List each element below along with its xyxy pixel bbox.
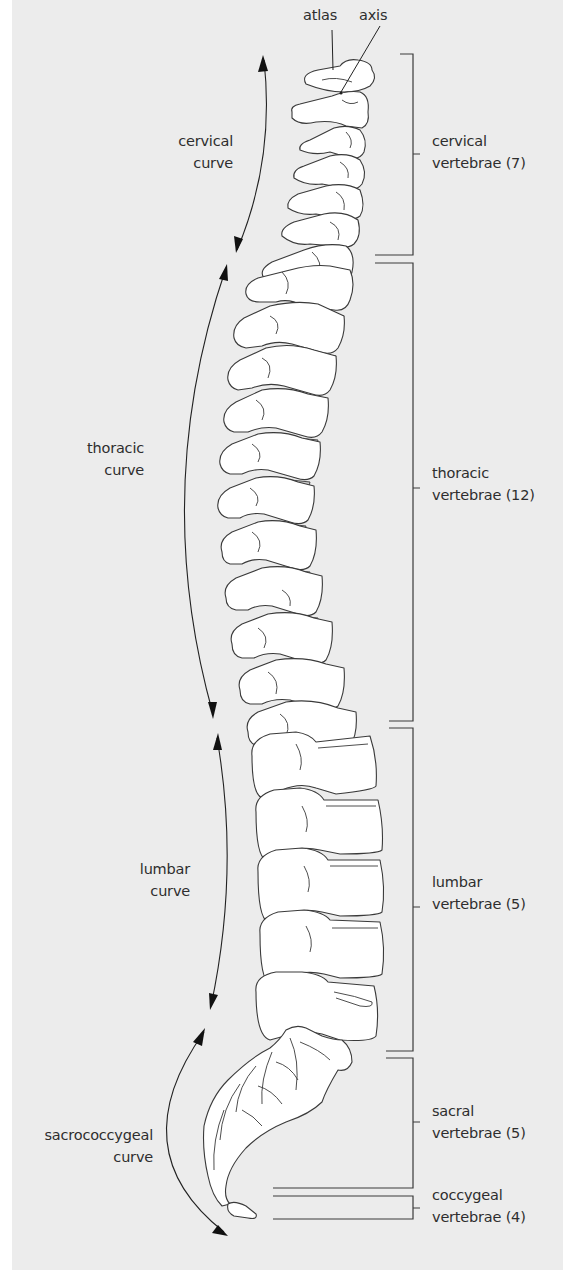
axis-label: axis xyxy=(359,4,387,26)
thoracic-bracket xyxy=(375,263,420,721)
thoracic-curve-arrow xyxy=(184,268,226,714)
arrowhead-icon xyxy=(219,264,228,281)
lumbar-curve-arrow xyxy=(211,738,227,1006)
coccygeal-vertebrae-label: coccygeal vertebrae (4) xyxy=(432,1184,526,1228)
arrowhead-icon xyxy=(212,1225,228,1236)
cervical-vertebrae-label: cervical vertebrae (7) xyxy=(432,130,526,174)
arrowhead-icon xyxy=(234,236,243,253)
atlas-pointer-line xyxy=(332,30,333,70)
cervical-curve-label: cervical curve xyxy=(150,130,233,174)
arrowhead-icon xyxy=(209,993,218,1010)
cervical-bracket xyxy=(375,54,420,255)
atlas-label: atlas xyxy=(303,4,337,26)
thoracic-curve-label: thoracic curve xyxy=(60,437,144,481)
cervical-vertebrae xyxy=(262,60,374,286)
arrowhead-icon xyxy=(213,733,222,750)
cervical-curve-arrow xyxy=(237,60,266,250)
sacrococcygeal-curve-label: sacrococcygeal curve xyxy=(20,1124,153,1168)
lumbar-bracket xyxy=(386,728,420,1051)
spine-illustration xyxy=(204,26,384,1219)
vertebral-column-diagram xyxy=(0,0,574,1270)
coccygeal-bracket xyxy=(273,1196,420,1219)
arrowhead-icon xyxy=(208,702,217,719)
thoracic-vertebrae xyxy=(218,266,357,750)
thoracic-vertebrae-label: thoracic vertebrae (12) xyxy=(432,462,535,506)
lumbar-curve-label: lumbar curve xyxy=(100,858,190,902)
lumbar-vertebrae-label: lumbar vertebrae (5) xyxy=(432,871,526,915)
arrowhead-icon xyxy=(258,55,268,72)
lumbar-vertebrae xyxy=(252,732,384,1041)
sacrum-coccyx xyxy=(204,1026,353,1218)
arrowhead-icon xyxy=(193,1028,205,1046)
sacral-vertebrae-label: sacral vertebrae (5) xyxy=(432,1100,526,1144)
